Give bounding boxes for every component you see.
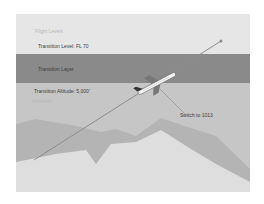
altimetry-diagram: Flight Levels Transition Level: FL 70 Tr… [16,14,250,192]
transition-altitude-label: Transition Altitude: 5,000' [34,88,90,94]
transition-layer-label: Transition Layer [38,66,74,72]
airplane-icon [131,64,179,102]
altitudes-label: Altitudes [32,98,51,104]
flight-levels-label: Flight Levels [35,28,63,34]
path-end-dot [220,40,223,43]
transition-level-label: Transition Level: FL 70 [38,43,89,49]
switch-to-1013-label: Switch to 1013 [180,112,213,118]
